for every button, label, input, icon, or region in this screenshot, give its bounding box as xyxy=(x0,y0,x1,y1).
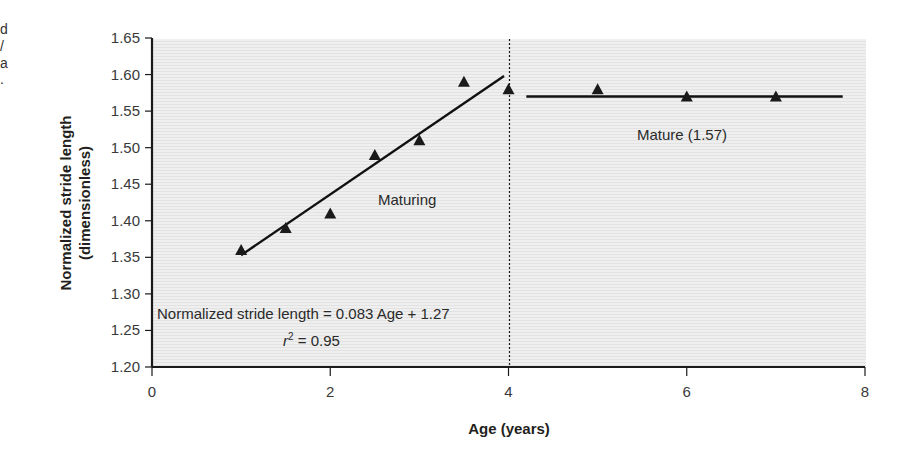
x-axis-title: Age (years) xyxy=(468,420,550,437)
y-tick-label: 1.60 xyxy=(111,66,140,83)
mature-label: Mature (1.57) xyxy=(637,126,727,143)
y-axis-title-line-2: (dimensionless) xyxy=(76,146,93,260)
y-tick-label: 1.45 xyxy=(111,175,140,192)
x-tick-label: 6 xyxy=(683,383,691,400)
y-tick-label: 1.65 xyxy=(111,29,140,46)
x-tick-label: 4 xyxy=(504,383,512,400)
y-tick-label: 1.25 xyxy=(111,321,140,338)
y-axis: 1.201.251.301.351.401.451.501.551.601.65 xyxy=(111,29,152,375)
x-axis: 02468 xyxy=(148,367,869,400)
y-tick-label: 1.55 xyxy=(111,102,140,119)
stride-length-chart: 1.201.251.301.351.401.451.501.551.601.65… xyxy=(0,0,905,460)
y-tick-label: 1.20 xyxy=(111,358,140,375)
x-tick-label: 2 xyxy=(326,383,334,400)
x-tick-label: 8 xyxy=(861,383,869,400)
y-axis-title-line-1: Normalized stride length xyxy=(57,115,74,290)
y-tick-label: 1.40 xyxy=(111,212,140,229)
y-tick-label: 1.50 xyxy=(111,139,140,156)
regression-equation: Normalized stride length = 0.083 Age + 1… xyxy=(157,305,450,322)
y-tick-label: 1.30 xyxy=(111,285,140,302)
r-value: = 0.95 xyxy=(294,332,340,349)
y-tick-label: 1.35 xyxy=(111,248,140,265)
maturing-label: Maturing xyxy=(378,191,436,208)
x-tick-label: 0 xyxy=(148,383,156,400)
